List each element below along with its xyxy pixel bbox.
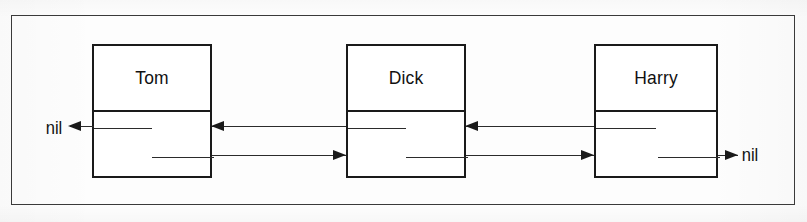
diagram-page: Tom Dick Harry nil nil [0,0,807,222]
prev-pointer-stub [596,128,656,129]
next-pointer-stub [406,157,468,158]
next-pointer-stub [152,157,214,158]
next-link-tom-to-dick [212,155,346,156]
list-node-dick[interactable]: Dick [346,44,466,178]
prev-link-dick-to-tom [212,126,346,127]
node-cell-divider [346,110,466,112]
nil-terminator-right: nil [742,146,759,164]
prev-pointer-stub [94,128,152,129]
node-name-label: Harry [601,46,711,110]
arrow-head-right-icon [333,150,346,160]
next-pointer-stub [658,157,720,158]
node-name-label: Tom [99,46,206,110]
node-cell-divider [594,110,718,112]
arrow-head-left-icon [465,121,478,131]
next-link-dick-to-harry [466,155,594,156]
list-node-tom[interactable]: Tom [92,44,212,178]
arrow-head-left-icon [68,121,81,131]
nil-terminator-left: nil [46,119,63,137]
arrow-head-right-icon [725,150,738,160]
arrow-head-right-icon [581,150,594,160]
arrow-head-left-icon [211,121,224,131]
node-cell-divider [92,110,212,112]
prev-link-harry-to-dick [466,126,594,127]
prev-pointer-stub [348,128,406,129]
list-node-harry[interactable]: Harry [594,44,718,178]
node-name-label: Dick [353,46,460,110]
